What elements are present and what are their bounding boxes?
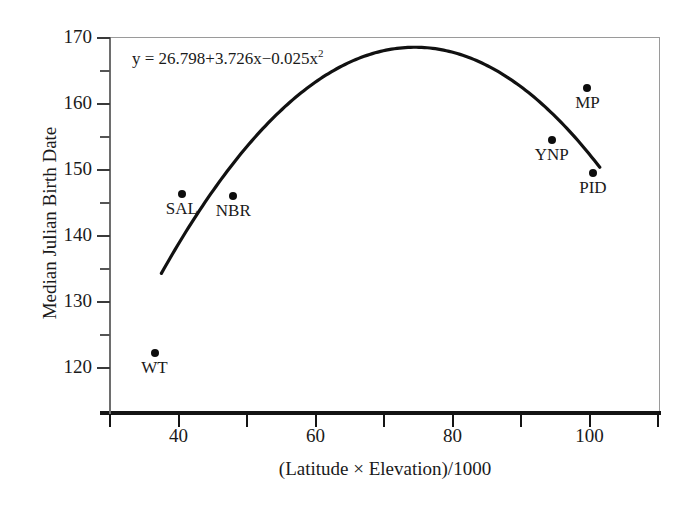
data-point-marker: [583, 84, 591, 92]
x-axis-minor-tick: [657, 414, 659, 427]
y-axis-title: Median Julian Birth Date: [39, 53, 61, 393]
data-point-label: PID: [548, 179, 638, 197]
data-point-label: MP: [542, 94, 632, 112]
x-axis-tick-label: 100: [560, 425, 620, 447]
x-axis-minor-tick: [109, 414, 111, 427]
y-axis-minor-tick: [100, 202, 110, 204]
data-point-marker: [548, 136, 556, 144]
y-axis-tick: [97, 301, 110, 303]
data-point-label: YNP: [507, 146, 597, 164]
x-axis-tick-label: 60: [286, 425, 346, 447]
y-axis-tick: [97, 169, 110, 171]
y-axis-tick: [97, 37, 110, 39]
y-axis-tick: [97, 367, 110, 369]
y-axis-minor-tick: [100, 268, 110, 270]
scatter-plot-figure: 120130140150160170 406080100 Median Juli…: [0, 0, 694, 507]
y-axis-minor-tick: [100, 70, 110, 72]
y-axis-minor-tick: [100, 136, 110, 138]
x-axis-tick-label: 40: [149, 425, 209, 447]
y-axis-tick-label: 170: [28, 27, 92, 46]
y-axis-minor-tick: [100, 334, 110, 336]
x-axis-minor-tick: [383, 414, 385, 427]
x-axis-title: (Latitude × Elevation)/1000: [110, 458, 660, 480]
regression-equation-annotation: y = 26.798+3.726x−0.025x2: [132, 47, 324, 69]
regression-equation-text: y = 26.798+3.726x−0.025x: [132, 49, 318, 68]
data-point-label: WT: [110, 359, 200, 377]
x-axis-minor-tick: [520, 414, 522, 427]
data-point-marker: [178, 190, 186, 198]
data-point-label: NBR: [188, 202, 278, 220]
data-point-marker: [151, 349, 159, 357]
x-axis-line: [100, 411, 661, 415]
x-axis-tick-label: 80: [423, 425, 483, 447]
y-axis-tick: [97, 103, 110, 105]
regression-equation-exponent: 2: [318, 47, 324, 59]
x-axis-minor-tick: [246, 414, 248, 427]
y-axis-tick: [97, 235, 110, 237]
